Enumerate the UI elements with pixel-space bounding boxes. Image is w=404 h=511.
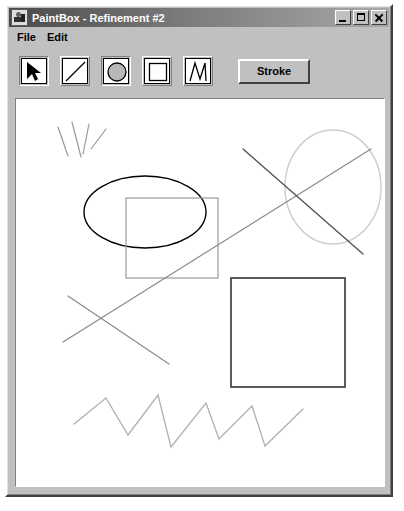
menu-item-file[interactable]: File [15, 30, 45, 44]
rectangle-gray-overlap[interactable] [126, 198, 218, 278]
stroke-button[interactable]: Stroke [238, 59, 310, 84]
polyline-zigzag[interactable] [74, 395, 303, 447]
menu-bar: File Edit [9, 28, 389, 46]
line-long-diagonal[interactable] [63, 149, 371, 342]
line-icon [62, 58, 88, 84]
rectangle-dark[interactable] [231, 278, 345, 387]
drawing-canvas[interactable] [16, 99, 384, 486]
ellipse-icon [103, 58, 129, 84]
tool-button-select[interactable] [19, 56, 49, 86]
tool-button-polyline[interactable] [183, 56, 213, 86]
rectangle-icon [144, 58, 170, 84]
toolbar: Stroke [9, 46, 389, 96]
app-icon [11, 9, 28, 26]
title-bar[interactable]: PaintBox - Refinement #2 [9, 8, 389, 27]
app-window: PaintBox - Refinement #2 File Edit [5, 4, 393, 497]
minimize-icon [339, 20, 346, 22]
ellipse-left-black[interactable] [84, 176, 206, 248]
window-title: PaintBox - Refinement #2 [32, 12, 335, 24]
arrow-cursor-icon [21, 58, 47, 84]
minimize-button[interactable] [335, 10, 351, 25]
window-controls [335, 10, 387, 25]
tool-button-ellipse[interactable] [101, 56, 131, 86]
tool-button-rectangle[interactable] [142, 56, 172, 86]
app-icon-shape-3 [21, 14, 25, 22]
stroke-mark-3[interactable] [83, 124, 89, 154]
stroke-mark-2[interactable] [72, 122, 81, 157]
tool-button-line[interactable] [60, 56, 90, 86]
maximize-icon [357, 13, 365, 21]
maximize-button[interactable] [353, 10, 369, 25]
stroke-mark-1[interactable] [58, 127, 68, 156]
stroke-mark-4[interactable] [91, 129, 106, 149]
polyline-icon [185, 58, 211, 84]
drawing-canvas-frame[interactable] [15, 98, 385, 487]
close-button[interactable] [371, 10, 387, 25]
menu-item-edit[interactable]: Edit [45, 30, 77, 44]
